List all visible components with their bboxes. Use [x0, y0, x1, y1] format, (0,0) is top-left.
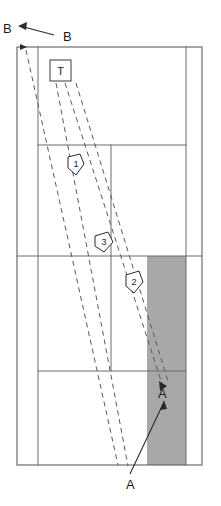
callout-2-label: 2 — [131, 277, 136, 287]
plan-diagram-svg: T 1 3 2 B B A A — [0, 0, 221, 506]
leader-b-arrowhead-icon — [18, 22, 27, 30]
callout-3: 3 — [95, 232, 113, 252]
sight-line-2 — [56, 83, 128, 466]
sight-line-4 — [76, 83, 168, 381]
shaded-region — [147, 256, 186, 465]
point-b-label: B — [3, 21, 12, 36]
origin-arrowhead-icon — [20, 44, 27, 50]
diagram-canvas: T 1 3 2 B B A A — [0, 0, 221, 506]
sight-line-1 — [26, 50, 118, 465]
callout-1: 1 — [68, 154, 84, 175]
callout-2: 2 — [126, 271, 143, 293]
sight-line-3 — [65, 83, 163, 387]
leader-a-label: A — [126, 477, 135, 492]
t-box-label: T — [57, 65, 64, 77]
callout-1-label: 1 — [73, 159, 78, 169]
leader-b-label: B — [63, 29, 72, 44]
callout-3-label: 3 — [101, 237, 106, 247]
point-a-label: A — [158, 386, 167, 401]
